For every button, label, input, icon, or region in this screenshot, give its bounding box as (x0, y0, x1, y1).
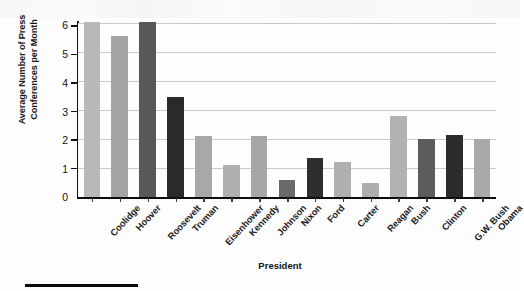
x-tick-mark-9 (343, 198, 345, 202)
bar-johnson (251, 136, 268, 197)
bar-truman (167, 97, 184, 197)
y-tick-label-1: 1 (50, 164, 68, 174)
bar-kennedy (223, 165, 240, 197)
x-axis-title: President (0, 260, 520, 271)
x-tick-mark-5 (231, 198, 233, 202)
x-tick-mark-7 (287, 198, 289, 202)
bar-reagan (362, 183, 379, 198)
bar-bush (390, 116, 407, 197)
bar-roosevelt (139, 22, 156, 197)
x-tick-mark-4 (203, 198, 205, 202)
bar-g-w-bush (446, 135, 463, 197)
bar-eisenhower (195, 136, 212, 197)
y-tick-label-2: 2 (50, 135, 68, 145)
bar-carter (334, 162, 351, 197)
bar-ford (307, 158, 324, 197)
x-tick-mark-12 (426, 198, 428, 202)
x-tick-mark-10 (371, 198, 373, 202)
bar-clinton (418, 139, 435, 197)
x-tick-mark-11 (398, 198, 400, 202)
x-tick-mark-8 (315, 198, 317, 202)
y-tick-label-4: 4 (50, 78, 68, 88)
y-tick-label-6: 6 (50, 20, 68, 30)
bar-hoover (111, 36, 128, 197)
bar-nixon (279, 180, 296, 197)
x-tick-mark-6 (259, 198, 261, 202)
caption-rule-artifact (25, 284, 138, 287)
y-tick-label-3: 3 (50, 107, 68, 117)
x-tick-mark-13 (454, 198, 456, 202)
bar-coolidge (84, 22, 101, 197)
x-tick-mark-14 (482, 198, 484, 202)
y-tick-label-0: 0 (50, 192, 68, 202)
x-tick-mark-1 (120, 198, 122, 202)
y-tick-label-5: 5 (50, 49, 68, 59)
plot-area (78, 23, 496, 197)
x-tick-mark-0 (92, 198, 94, 202)
x-tick-mark-3 (176, 198, 178, 202)
bar-obama (474, 139, 491, 197)
x-tick-mark-2 (148, 198, 150, 202)
